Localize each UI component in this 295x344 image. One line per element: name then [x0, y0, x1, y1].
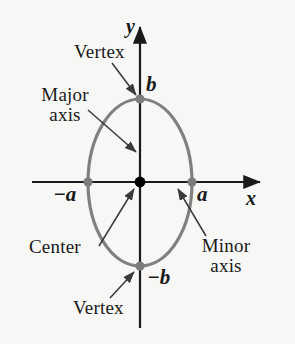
major-axis-label: Major axis [33, 85, 97, 125]
vertex-bottom-leader-arrow [110, 272, 134, 298]
vertex-top-label: Vertex [74, 42, 125, 62]
major-axis-label-line2: axis [33, 105, 97, 125]
top-vertex-value-label: b [146, 73, 157, 95]
right-covertex-value-label: a [197, 183, 208, 205]
bottom-vertex-value-label: −b [147, 266, 170, 288]
bottom-vertex-dot [135, 261, 144, 270]
minor-axis-label: Minor axis [196, 236, 256, 276]
diagram-canvas [0, 0, 295, 344]
ellipse-diagram: y x b −b −a a Vertex Major axis Center M… [0, 0, 295, 344]
minor-axis-label-line1: Minor [196, 236, 256, 256]
right-covertex-dot [187, 177, 196, 186]
center-leader-arrow [99, 189, 134, 246]
vertex-top-leader-arrow [112, 63, 136, 95]
left-covertex-value-label: −a [53, 183, 76, 205]
x-axis-label: x [246, 188, 256, 209]
vertex-bottom-label: Vertex [73, 298, 124, 318]
left-covertex-dot [83, 177, 92, 186]
center-label: Center [29, 237, 81, 257]
minor-axis-label-line2: axis [196, 256, 256, 276]
top-vertex-dot [135, 94, 144, 103]
center-dot [135, 177, 146, 188]
y-axis-label: y [126, 16, 135, 37]
major-axis-label-line1: Major [33, 85, 97, 105]
